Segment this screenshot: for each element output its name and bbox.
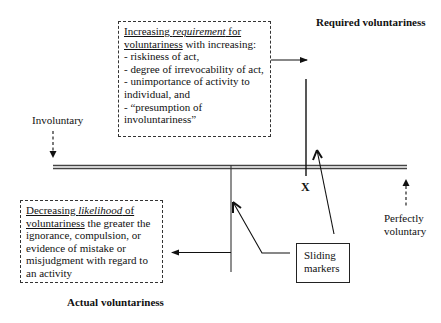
requirement-item: - unimportance of activity to bbox=[124, 75, 265, 88]
requirement-item: - “presumption of bbox=[124, 101, 265, 114]
likelihood-line: misjudgment with regard to bbox=[26, 254, 157, 267]
requirement-heading: Increasing requirement for bbox=[124, 25, 265, 38]
voluntariness-axis bbox=[53, 166, 407, 169]
requirement-heading-line2: voluntariness with increasing: bbox=[124, 38, 265, 51]
sliding-marker-pointer-required-icon bbox=[313, 150, 334, 234]
requirement-item: - degree of irrevocability of act, bbox=[124, 63, 265, 76]
likelihood-heading-line2: voluntariness the greater the bbox=[26, 217, 157, 230]
likelihood-line: an activity bbox=[26, 267, 157, 280]
requirement-item: involuntariness” bbox=[124, 113, 265, 126]
involuntary-label: Involuntary bbox=[32, 114, 83, 127]
marker-x-label: X bbox=[301, 180, 310, 195]
requirement-item: individual, and bbox=[124, 88, 265, 101]
involuntary-arrow-icon bbox=[50, 131, 57, 158]
required-voluntariness-title: Required voluntariness bbox=[316, 16, 426, 28]
actual-voluntariness-title: Actual voluntariness bbox=[67, 296, 164, 308]
likelihood-line: evidence of mistake or bbox=[26, 242, 157, 255]
perfectly-voluntary-label: Perfectly voluntary bbox=[384, 212, 426, 238]
likelihood-heading: Decreasing likelihood of bbox=[26, 204, 157, 217]
requirement-box: Increasing requirement for voluntariness… bbox=[118, 21, 271, 137]
likelihood-box: Decreasing likelihood of voluntariness t… bbox=[20, 200, 163, 283]
likelihood-line: ignorance, compulsion, or bbox=[26, 229, 157, 242]
sliding-markers-box: Sliding markers bbox=[296, 243, 350, 283]
requirement-item: - riskiness of act, bbox=[124, 50, 265, 63]
perfectly-voluntary-arrow-icon bbox=[403, 179, 410, 207]
sliding-marker-pointer-actual-icon bbox=[233, 202, 290, 253]
